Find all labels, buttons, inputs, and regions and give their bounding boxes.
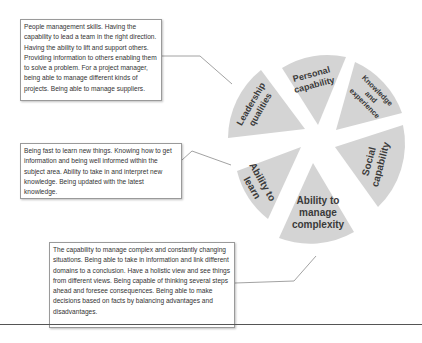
connector-leadership	[162, 56, 232, 84]
svg-text:manage: manage	[299, 207, 337, 218]
connector-complexity	[235, 256, 316, 283]
connector-learn	[182, 151, 231, 165]
description-complexity: The capability to manage complex and con…	[49, 242, 235, 328]
bottom-divider	[0, 324, 422, 325]
description-learn: Being fast to learn new things. Knowing …	[20, 143, 182, 199]
svg-text:Ability to: Ability to	[297, 195, 340, 206]
description-leadership: People management skills. Having the cap…	[20, 19, 162, 101]
svg-text:complexity: complexity	[292, 219, 345, 230]
label-complexity: Ability to manage complexity	[292, 195, 345, 230]
